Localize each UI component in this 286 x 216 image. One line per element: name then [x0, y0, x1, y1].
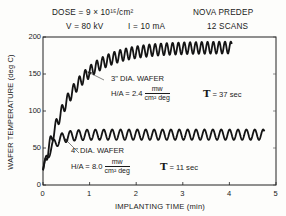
- wafer4-ha-prefix: H/A = 8.0: [71, 162, 102, 171]
- wafer4-label: 4" DIA. WAFER: [71, 146, 124, 155]
- tau-symbol-icon: T: [203, 88, 210, 99]
- wafer3-ha: H/A = 2.4 mw cm² deg: [111, 85, 170, 102]
- wafer3-ha-units: mw cm² deg: [145, 85, 170, 102]
- wafer4-tau: T = 11 sec: [160, 161, 198, 172]
- wafer3-label: 3" DIA. WAFER: [111, 74, 164, 83]
- wafer4-ha-units: mw cm² deg: [105, 158, 130, 175]
- wafer4-ha: H/A = 8.0 mw cm² deg: [71, 158, 130, 175]
- wafer3-tau: T = 37 sec: [203, 88, 242, 99]
- tau-symbol-icon: T: [160, 161, 167, 172]
- plot-area: [0, 0, 286, 216]
- wafer3-ha-prefix: H/A = 2.4: [111, 89, 142, 98]
